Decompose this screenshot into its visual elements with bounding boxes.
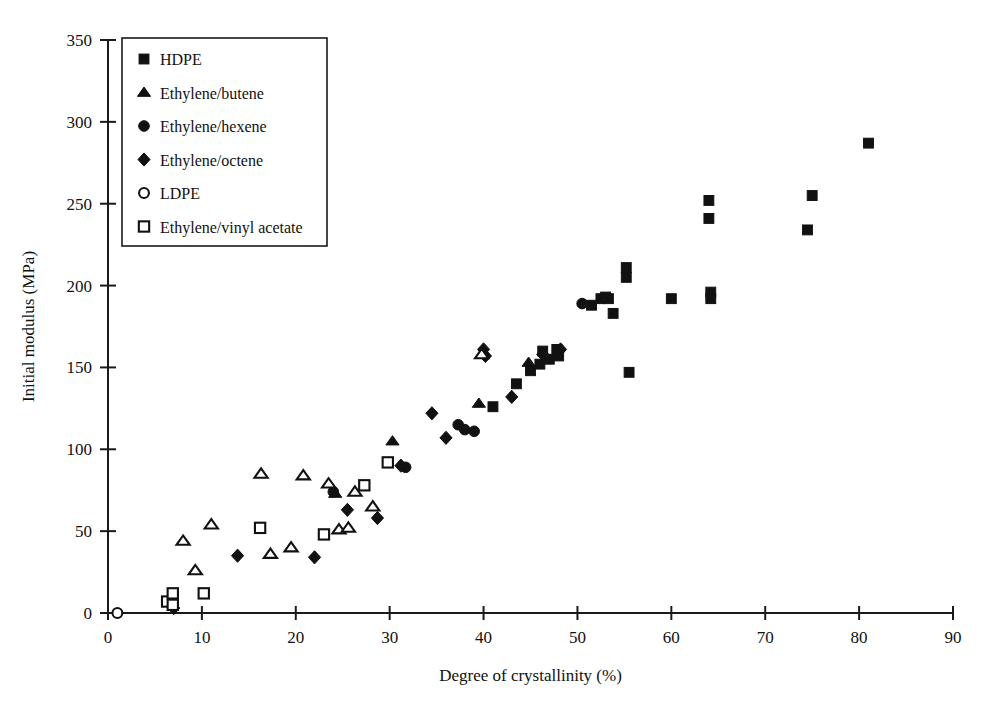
y-axis-title: Initial modulus (MPa) [19,251,38,402]
data-point [704,214,714,224]
y-tick-label: 100 [67,440,93,459]
data-point [371,511,383,524]
data-point [264,549,277,558]
y-tick-label: 150 [67,358,93,377]
data-point [621,263,631,273]
data-point [168,600,178,610]
legend-label: HDPE [160,51,202,68]
data-point [440,431,452,444]
data-point [624,367,634,377]
axis-titles-group: Degree of crystallinity (%)Initial modul… [19,251,622,685]
scatter-chart-figure: 0102030405060708090050100150200250300350… [0,0,997,706]
legend-label: Ethylene/vinyl acetate [160,219,303,237]
legend-label: LDPE [160,185,200,202]
data-point [254,468,267,477]
data-point [322,478,335,487]
data-point [608,308,618,318]
x-tick-label: 20 [287,628,304,647]
data-point [189,565,202,574]
data-point [177,536,190,545]
data-point [706,294,716,304]
data-point [284,542,297,551]
data-point [864,138,874,148]
x-tick-label: 40 [475,628,492,647]
data-point [168,588,178,598]
data-point [522,357,535,366]
x-tick-label: 90 [945,628,962,647]
x-tick-label: 10 [193,628,210,647]
legend-marker-open-circle [139,188,149,198]
legend-marker-filled-circle [139,121,150,132]
y-tick-label: 50 [75,522,92,541]
x-tick-label: 30 [381,628,398,647]
y-tick-label: 200 [67,277,93,296]
x-tick-label: 80 [851,628,868,647]
data-point [603,294,613,304]
series-hdpe [488,138,873,411]
y-tick-label: 300 [67,113,93,132]
data-point [383,457,393,467]
x-tick-label: 50 [569,628,586,647]
series-ethylene-octene [168,343,567,615]
series-ldpe [112,608,122,618]
y-tick-label: 350 [67,31,93,50]
series-ethylene-butene-open [177,349,489,574]
y-tick-label: 250 [67,195,93,214]
data-point [319,529,329,539]
x-axis-title: Degree of crystallinity (%) [439,666,622,685]
data-point [526,366,536,376]
data-point [472,398,485,407]
series-ethylene-hexene [328,298,587,497]
data-point [511,379,521,389]
data-point [366,501,379,510]
data-point [426,407,438,420]
chart-legend: HDPEEthylene/buteneEthylene/hexeneEthyle… [122,38,327,246]
data-point [386,436,399,445]
data-point [231,549,243,562]
x-tick-label: 70 [757,628,774,647]
y-tick-label: 0 [84,604,93,623]
legend-marker-filled-square [139,54,149,64]
data-point [341,503,353,516]
x-tick-label: 60 [663,628,680,647]
data-point [704,196,714,206]
legend-label: Ethylene/butene [160,85,264,103]
plot-canvas: 0102030405060708090050100150200250300350… [0,0,997,706]
data-point [359,480,369,490]
data-point [506,390,518,403]
data-point [199,588,209,598]
legend-border [122,38,327,246]
legend-label: Ethylene/hexene [160,118,267,136]
series-ethylene-vinyl-acetate [162,457,393,610]
data-point [621,272,631,282]
data-point [459,424,470,435]
data-point [807,191,817,201]
data-point [255,523,265,533]
data-point [488,402,498,412]
data-point [205,519,218,528]
data-point [342,522,355,531]
legend-marker-open-square [139,221,149,231]
legend-label: Ethylene/octene [160,152,263,170]
data-point [803,225,813,235]
x-tick-label: 0 [104,628,113,647]
data-point [577,298,588,309]
data-point [297,470,310,479]
data-point [469,426,480,437]
data-point [308,551,320,564]
series-ethylene-butene [329,357,536,497]
data-point [587,300,597,310]
data-point [666,294,676,304]
data-point [112,608,122,618]
